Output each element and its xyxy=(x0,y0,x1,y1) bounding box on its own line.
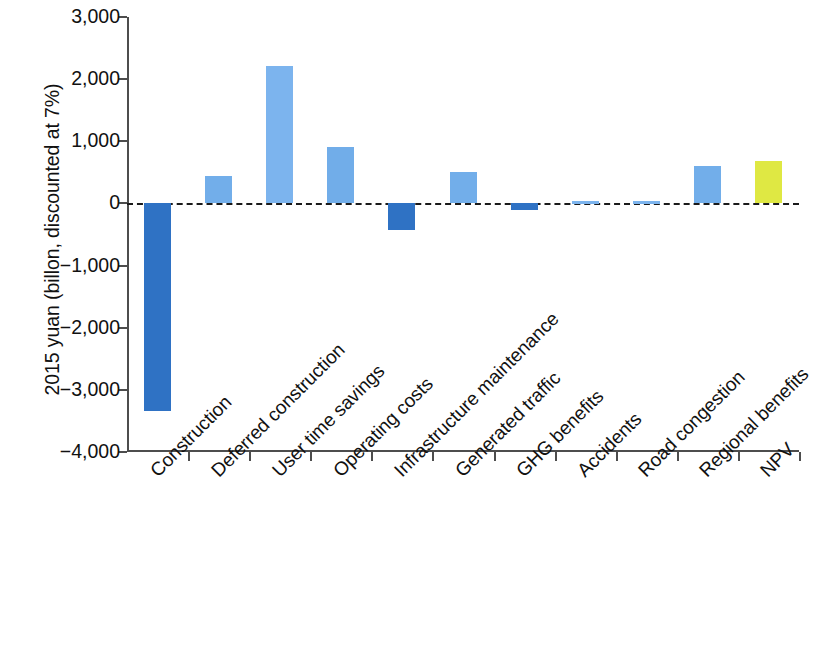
bar xyxy=(450,172,477,203)
y-axis-tick-label: −1,000 xyxy=(60,254,120,276)
plot-area: 3,0002,0001,0000−1,000−2,000−3,000−4,000 xyxy=(127,17,799,452)
y-axis-line xyxy=(127,17,129,452)
bar xyxy=(511,203,538,210)
bar xyxy=(633,201,660,204)
bar xyxy=(572,201,599,204)
bar xyxy=(388,203,415,230)
y-axis-tick-label: 0 xyxy=(109,191,120,213)
y-axis-tick-label: −2,000 xyxy=(60,316,120,338)
y-axis-tick-label: 3,000 xyxy=(71,5,120,27)
bar xyxy=(327,147,354,204)
bar xyxy=(144,203,171,411)
zero-reference-line xyxy=(127,203,799,205)
bar xyxy=(266,66,293,203)
bar xyxy=(694,166,721,203)
bar xyxy=(205,176,232,203)
y-axis-tick-label: −3,000 xyxy=(60,378,120,400)
x-axis-tick-mark xyxy=(799,452,801,461)
bar xyxy=(755,161,782,203)
y-axis-tick-label: −4,000 xyxy=(60,440,120,462)
bar-chart-figure: 2015 yuan (billon, discounted at 7%) 3,0… xyxy=(0,0,814,646)
y-axis-tick-label: 2,000 xyxy=(71,67,120,89)
y-axis-tick-label: 1,000 xyxy=(71,129,120,151)
